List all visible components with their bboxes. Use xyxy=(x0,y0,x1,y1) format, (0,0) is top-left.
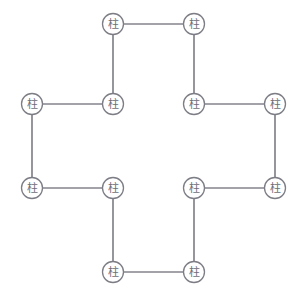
column-symbol-icon: 柱 xyxy=(108,97,119,111)
column-symbol-icon: 柱 xyxy=(189,265,200,279)
column-symbol-icon: 柱 xyxy=(270,181,281,195)
column-symbol-icon: 柱 xyxy=(27,97,38,111)
node-layer: 柱柱柱柱柱柱柱柱柱柱柱柱 xyxy=(22,14,286,283)
column-node-upper-inner-left[interactable]: 柱 xyxy=(103,94,124,115)
column-symbol-icon: 柱 xyxy=(108,265,119,279)
column-node-top-left[interactable]: 柱 xyxy=(103,14,124,35)
column-symbol-icon: 柱 xyxy=(189,17,200,31)
edge-layer xyxy=(32,24,275,272)
column-node-left-lower[interactable]: 柱 xyxy=(22,178,43,199)
column-node-bottom-left[interactable]: 柱 xyxy=(103,262,124,283)
column-node-top-right[interactable]: 柱 xyxy=(184,14,205,35)
column-layout-diagram: 柱柱柱柱柱柱柱柱柱柱柱柱 xyxy=(0,0,302,300)
column-symbol-icon: 柱 xyxy=(189,97,200,111)
column-symbol-icon: 柱 xyxy=(27,181,38,195)
column-node-left-upper[interactable]: 柱 xyxy=(22,94,43,115)
column-node-upper-inner-right[interactable]: 柱 xyxy=(184,94,205,115)
column-node-lower-inner-right[interactable]: 柱 xyxy=(184,178,205,199)
column-symbol-icon: 柱 xyxy=(108,17,119,31)
column-node-lower-inner-left[interactable]: 柱 xyxy=(103,178,124,199)
diagram-canvas: 柱柱柱柱柱柱柱柱柱柱柱柱 xyxy=(0,0,302,300)
column-symbol-icon: 柱 xyxy=(270,97,281,111)
column-node-right-upper[interactable]: 柱 xyxy=(265,94,286,115)
column-symbol-icon: 柱 xyxy=(189,181,200,195)
column-node-bottom-right[interactable]: 柱 xyxy=(184,262,205,283)
column-symbol-icon: 柱 xyxy=(108,181,119,195)
column-node-right-lower[interactable]: 柱 xyxy=(265,178,286,199)
